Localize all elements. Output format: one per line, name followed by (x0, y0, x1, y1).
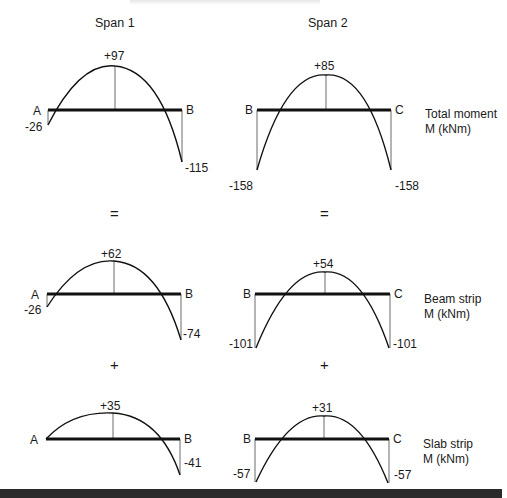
support-label-left: A (33, 104, 41, 118)
support-label-right: C (395, 103, 404, 117)
slab-span1: A B +35 -41 (30, 399, 202, 475)
support-label-left: A (31, 288, 39, 302)
beam-span1: A B -26 +62 -74 (24, 247, 201, 341)
mid-moment-value: +35 (100, 399, 121, 413)
support-label-right: B (185, 287, 193, 301)
row-caption-line2: M (kNm) (423, 452, 469, 466)
total-span2: B C -158 +85 -158 (229, 59, 419, 193)
support-label-right: C (393, 432, 402, 446)
left-moment-value: -26 (24, 303, 42, 317)
row-caption-line2: M (kNm) (425, 122, 471, 136)
bottom-scan-edge (0, 489, 502, 498)
mid-moment-value: +85 (314, 59, 335, 73)
total-moment-row: A B -26 +97 -115 B C -158 +85 -158 Total… (25, 49, 498, 193)
span2-header: Span 2 (308, 16, 348, 30)
support-label-left: B (243, 432, 251, 446)
right-moment-value: -41 (184, 456, 202, 470)
support-label-left: B (243, 287, 251, 301)
moment-curve (256, 416, 388, 483)
equals-sign-span1: = (110, 205, 119, 222)
equals-sign-span2: = (320, 205, 329, 222)
right-moment-value: -115 (185, 161, 208, 175)
row-caption-line1: Beam strip (424, 292, 482, 306)
mid-moment-value: +31 (312, 401, 333, 415)
beam-strip-row: A B -26 +62 -74 B C -101 -101 +54 Beam s… (24, 247, 482, 351)
right-moment-value: -101 (393, 337, 417, 351)
slab-strip-row: A B +35 -41 B C -57 +31 -57 Slab strip M… (30, 399, 473, 483)
row-caption-line2: M (kNm) (424, 307, 470, 321)
support-label-right: B (184, 432, 192, 446)
row-caption-line1: Total moment (425, 107, 498, 121)
row-caption-line1: Slab strip (423, 437, 473, 451)
total-span1: A B -26 +97 -115 (25, 49, 208, 175)
right-moment-value: -74 (183, 327, 201, 341)
right-moment-value: -158 (395, 179, 419, 193)
left-moment-value: -57 (233, 467, 251, 481)
mid-moment-value: +97 (104, 49, 125, 63)
span1-header: Span 1 (95, 16, 135, 30)
support-label-left: B (245, 103, 253, 117)
moment-curve (256, 272, 389, 348)
left-moment-value: -26 (25, 120, 43, 134)
right-moment-value: -57 (394, 468, 412, 482)
beam-span2: B C -101 -101 +54 (229, 257, 417, 351)
moment-curve (257, 75, 391, 170)
support-label-left: A (30, 433, 38, 447)
mid-moment-value: +62 (101, 247, 122, 261)
left-moment-value: -101 (229, 337, 253, 351)
support-label-right: B (186, 103, 194, 117)
left-moment-value: -158 (229, 179, 253, 193)
moment-diagram: Span 1 Span 2 A B -26 +97 -115 B C -158 … (0, 0, 507, 498)
plus-sign-span1: + (110, 356, 119, 373)
mid-moment-value: +54 (313, 257, 334, 271)
support-label-right: C (394, 287, 403, 301)
plus-sign-span2: + (320, 356, 329, 373)
slab-span2: B C -57 +31 -57 (233, 401, 412, 483)
